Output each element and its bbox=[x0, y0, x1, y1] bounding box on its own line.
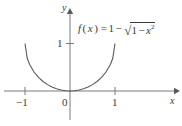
radicand-minus: − bbox=[137, 24, 146, 36]
x-axis-label: x bbox=[170, 96, 174, 106]
radical-sign-icon: √ bbox=[124, 24, 131, 37]
radicand-exponent: 2 bbox=[151, 23, 155, 31]
formula-radicand: 1−x2 bbox=[130, 22, 155, 36]
formula-minus: − bbox=[114, 23, 123, 34]
formula-radical-group: √1−x2 bbox=[124, 22, 155, 36]
x-tick-label-neg-one: −1 bbox=[16, 97, 28, 108]
origin-label: 0 bbox=[62, 97, 68, 108]
arrow-right-icon bbox=[174, 88, 180, 94]
formula-paren-open: ( bbox=[81, 23, 88, 34]
function-formula-annotation: f(x)=1−√1−x2 bbox=[78, 22, 155, 36]
y-tick-label-one: 1 bbox=[57, 38, 63, 49]
formula-equals: = bbox=[99, 23, 108, 34]
x-tick-label-pos-one: 1 bbox=[112, 97, 118, 108]
formula-paren-close: ) bbox=[93, 23, 100, 34]
function-graph-figure: −1 0 1 1 y x f(x)=1−√1−x2 bbox=[0, 0, 182, 126]
y-axis-label: y bbox=[62, 3, 66, 13]
arrow-up-icon bbox=[67, 8, 73, 14]
